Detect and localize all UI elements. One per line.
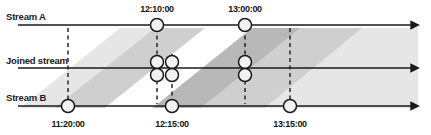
join-window-bands	[18, 28, 418, 110]
timestamp-12-15-00: 12:15:00	[155, 120, 189, 129]
event-node-b-1120[interactable]	[62, 100, 75, 113]
event-node-b-1315[interactable]	[284, 100, 297, 113]
timestamp-13-00-00: 13:00:00	[228, 5, 262, 14]
diagram-canvas	[0, 0, 431, 135]
event-node-j-1300-top[interactable]	[239, 56, 252, 69]
timestamp-11-20-00: 11:20:00	[51, 120, 84, 129]
event-node-b-1215[interactable]	[166, 100, 179, 113]
stream-join-diagram: Stream A Joined stream Stream B 12:10:00…	[0, 0, 431, 135]
event-node-j-1210-top[interactable]	[151, 56, 164, 69]
event-node-j-1215-top[interactable]	[166, 56, 179, 69]
lane-label-stream-a: Stream A	[6, 12, 46, 22]
timestamp-13-15-00: 13:15:00	[273, 120, 307, 129]
event-node-a-1210[interactable]	[151, 19, 164, 32]
event-node-a-1300[interactable]	[239, 19, 252, 32]
event-node-j-1215-bot[interactable]	[166, 69, 179, 82]
lane-label-stream-b: Stream B	[6, 93, 46, 103]
lane-label-joined-stream: Joined stream	[6, 56, 68, 66]
event-node-j-1300-bot[interactable]	[239, 69, 252, 82]
timestamp-12-10-00: 12:10:00	[140, 5, 174, 14]
event-node-j-1210-bot[interactable]	[151, 69, 164, 82]
